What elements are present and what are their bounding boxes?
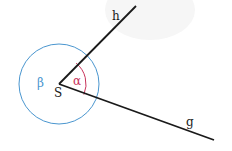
diagram-svg: h g α β S <box>0 0 232 151</box>
alpha-label: α <box>73 74 81 88</box>
vertex-label: S <box>54 86 62 100</box>
ray-h-label: h <box>112 9 120 23</box>
ray-g-label: g <box>186 115 194 129</box>
ray-g <box>59 84 214 140</box>
angle-diagram: h g α β S <box>0 0 232 151</box>
beta-label: β <box>37 76 44 90</box>
